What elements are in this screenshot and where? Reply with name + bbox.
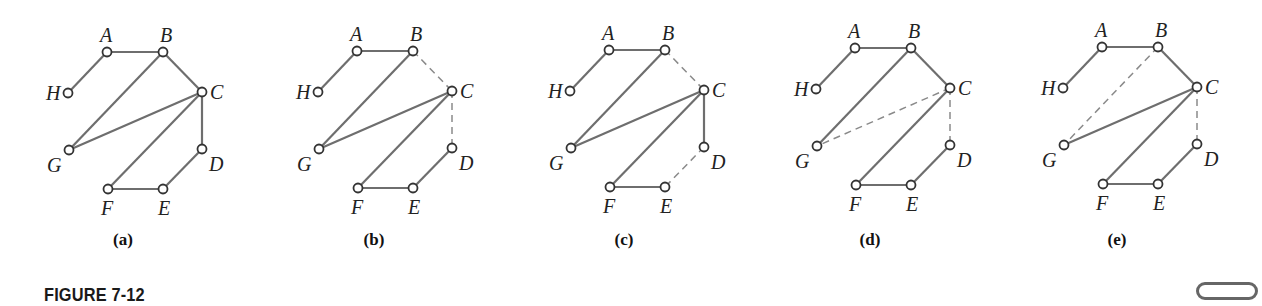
node-label-b: B (1155, 19, 1167, 41)
node-d (946, 141, 955, 150)
node-b (661, 46, 670, 55)
node-label-e: E (1152, 192, 1165, 214)
node-h (1059, 84, 1068, 93)
node-g (315, 145, 324, 154)
node-a (851, 44, 860, 53)
node-h (314, 88, 323, 97)
edge-bc-dashed (665, 50, 704, 90)
node-c (448, 87, 457, 96)
node-label-d: D (956, 149, 972, 171)
node-f (852, 181, 861, 190)
node-label-c: C (958, 77, 972, 99)
node-g (1060, 141, 1069, 150)
edge-cf-solid (610, 90, 704, 187)
node-b (409, 47, 418, 56)
node-label-e: E (905, 193, 918, 215)
node-label-g: G (1042, 149, 1057, 171)
node-g (567, 144, 576, 153)
node-label-d: D (1203, 148, 1219, 170)
node-label-f: F (602, 195, 616, 217)
node-label-f: F (848, 193, 862, 215)
node-c (198, 88, 207, 97)
node-f (354, 184, 363, 193)
rounded-pill-icon (1196, 282, 1258, 300)
node-label-g: G (47, 154, 62, 176)
node-label-e: E (407, 196, 420, 218)
node-a (605, 46, 614, 55)
node-c (946, 84, 955, 93)
node-label-b: B (410, 23, 422, 45)
subfigure-caption: (e) (1108, 230, 1127, 249)
edge-ha-solid (318, 51, 357, 92)
edge-cg-solid (69, 92, 202, 150)
node-f (606, 183, 615, 192)
node-label-c: C (1205, 76, 1219, 98)
edge-bc-dashed (413, 51, 452, 91)
edge-cf-solid (856, 88, 950, 185)
edge-ha-solid (1063, 47, 1102, 88)
subfigure-a: HABCDEFG(a) (45, 24, 224, 249)
node-d (1193, 140, 1202, 149)
node-a (103, 48, 112, 57)
edge-de-solid (1158, 144, 1197, 184)
node-label-h: H (793, 78, 810, 100)
node-label-h: H (1040, 77, 1057, 99)
node-g (65, 146, 74, 155)
edge-cg-solid (571, 90, 704, 148)
node-label-c: C (210, 81, 224, 103)
node-label-a: A (846, 20, 861, 42)
node-label-f: F (1095, 192, 1109, 214)
subfigure-caption: (b) (364, 230, 385, 249)
node-label-b: B (662, 22, 674, 44)
node-label-a: A (98, 24, 113, 46)
subfigure-caption: (c) (615, 230, 634, 249)
node-label-g: G (795, 150, 810, 172)
node-d (198, 145, 207, 154)
edge-bg-solid (571, 50, 665, 148)
node-d (448, 144, 457, 153)
edge-cg-solid (319, 91, 452, 149)
edge-cg-solid (1064, 87, 1197, 145)
node-label-e: E (659, 195, 672, 217)
edge-ha-solid (570, 50, 609, 91)
node-label-a: A (600, 22, 615, 44)
edge-cf-solid (358, 91, 452, 188)
node-b (1154, 43, 1163, 52)
subfigure-c: HABCDEFG(c) (547, 22, 726, 249)
edge-cf-solid (108, 92, 202, 189)
edge-bg-solid (69, 52, 163, 150)
edge-bg-solid (817, 48, 911, 146)
node-label-b: B (908, 20, 920, 42)
edge-de-solid (911, 145, 950, 185)
node-label-d: D (208, 153, 224, 175)
node-label-a: A (1093, 19, 1108, 41)
node-e (409, 184, 418, 193)
node-a (353, 47, 362, 56)
node-d (700, 143, 709, 152)
node-c (700, 86, 709, 95)
subfigure-b: HABCDEFG(b) (295, 23, 474, 249)
edge-bc-solid (1158, 47, 1197, 87)
figure-title: FIGURE 7-12 (44, 284, 145, 306)
node-label-f: F (350, 196, 364, 218)
edge-bg-dashed (1064, 47, 1158, 145)
edge-ha-solid (68, 52, 107, 93)
node-label-b: B (160, 24, 172, 46)
node-g (813, 142, 822, 151)
edge-de-solid (163, 149, 202, 189)
node-b (907, 44, 916, 53)
edge-bc-solid (911, 48, 950, 88)
node-label-d: D (710, 151, 726, 173)
node-a (1098, 43, 1107, 52)
node-h (566, 87, 575, 96)
node-e (159, 185, 168, 194)
figure-canvas: HABCDEFG(a)HABCDEFG(b)HABCDEFG(c)HABCDEF… (0, 0, 1262, 306)
node-h (812, 85, 821, 94)
node-e (907, 181, 916, 190)
node-label-c: C (460, 80, 474, 102)
node-f (1099, 180, 1108, 189)
subfigure-caption: (d) (860, 230, 881, 249)
node-label-e: E (157, 197, 170, 219)
node-e (661, 183, 670, 192)
subfigure-caption: (a) (113, 230, 133, 249)
